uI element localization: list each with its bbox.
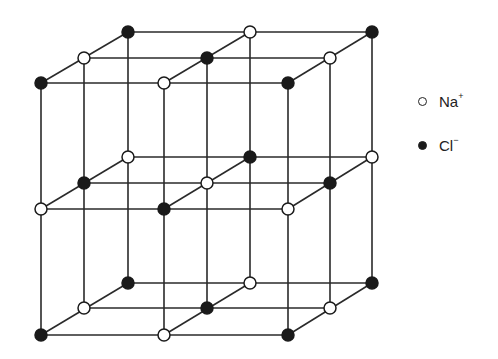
na-ion-icon — [324, 302, 336, 314]
cl-ion-icon — [158, 203, 170, 215]
cl-ion-icon — [122, 26, 134, 38]
legend-item-cl: Cl− — [418, 137, 458, 154]
cl-ion-icon — [244, 151, 256, 163]
na-ion-icon — [418, 97, 427, 106]
na-ion-icon — [244, 277, 256, 289]
cl-ion-icon — [282, 77, 294, 89]
cl-ion-icon — [366, 277, 378, 289]
cl-ion-icon — [35, 77, 47, 89]
legend-label-na: Na+ — [439, 93, 463, 110]
cl-ion-icon — [418, 141, 427, 150]
na-ion-icon — [244, 26, 256, 38]
na-ion-icon — [201, 177, 213, 189]
nacl-lattice-diagram — [0, 0, 498, 359]
cl-ion-icon — [122, 277, 134, 289]
na-ion-icon — [122, 151, 134, 163]
na-ion-icon — [324, 52, 336, 64]
na-ion-icon — [35, 203, 47, 215]
na-ion-icon — [282, 203, 294, 215]
na-ion-icon — [158, 329, 170, 341]
cl-ion-icon — [78, 177, 90, 189]
cl-ion-icon — [35, 329, 47, 341]
na-ion-icon — [78, 52, 90, 64]
na-ion-icon — [158, 77, 170, 89]
cl-ion-icon — [366, 26, 378, 38]
legend-item-na: Na+ — [418, 93, 463, 110]
cl-ion-icon — [282, 329, 294, 341]
cl-ion-icon — [324, 177, 336, 189]
na-ion-icon — [366, 151, 378, 163]
cl-ion-icon — [201, 52, 213, 64]
cl-ion-icon — [201, 302, 213, 314]
na-ion-icon — [78, 302, 90, 314]
legend-label-cl: Cl− — [439, 137, 458, 154]
